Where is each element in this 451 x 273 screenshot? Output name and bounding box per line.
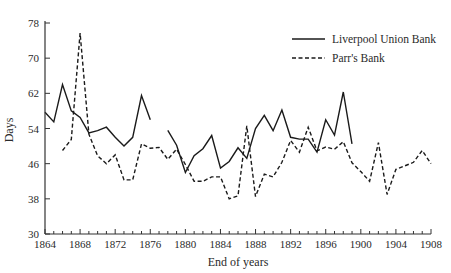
x-tick-label: 1892 <box>280 238 302 250</box>
x-tick-label: 1896 <box>315 238 338 250</box>
x-tick-label: 1888 <box>245 238 268 250</box>
x-axis-label: End of years <box>208 255 269 269</box>
x-tick-label: 1884 <box>209 238 232 250</box>
x-tick-label: 1872 <box>104 238 126 250</box>
x-tick-label: 1900 <box>350 238 373 250</box>
legend-item-parrs: Parr's Bank <box>292 52 385 64</box>
y-tick-label: 70 <box>28 52 40 64</box>
legend-label: Liverpool Union Bank <box>332 33 436 46</box>
line-chart: 3038465462707818641868187218761880188418… <box>0 0 451 273</box>
x-tick-label: 1868 <box>69 238 92 250</box>
x-tick-label: 1904 <box>385 238 408 250</box>
legend-item-liverpool: Liverpool Union Bank <box>292 33 436 46</box>
y-axis-label: Days <box>2 117 16 142</box>
x-tick-label: 1876 <box>139 238 162 250</box>
x-tick-label: 1864 <box>34 238 57 250</box>
y-tick-label: 78 <box>28 17 40 29</box>
legend-label: Parr's Bank <box>332 52 385 64</box>
y-tick-label: 54 <box>28 123 40 135</box>
x-tick-label: 1908 <box>420 238 443 250</box>
y-tick-label: 62 <box>28 87 39 99</box>
legend: Liverpool Union Bank Parr's Bank <box>292 33 436 64</box>
y-tick-label: 46 <box>28 158 40 170</box>
y-tick-label: 38 <box>28 193 40 205</box>
series-liverpool-union-bank <box>45 85 352 173</box>
x-tick-label: 1880 <box>174 238 197 250</box>
